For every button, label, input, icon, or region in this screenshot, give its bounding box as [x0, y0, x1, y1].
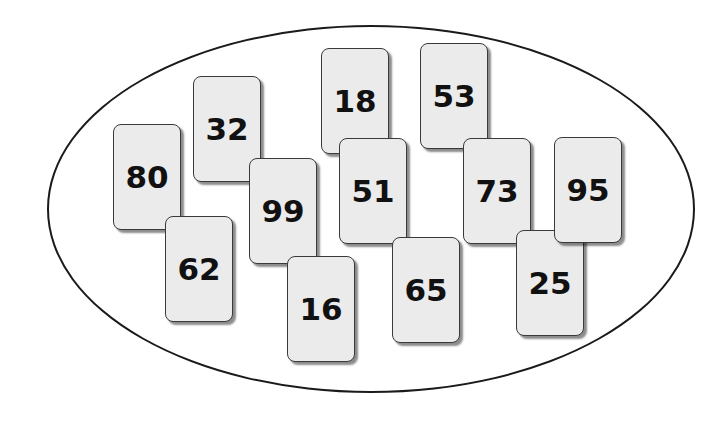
number-card: 65	[392, 237, 460, 343]
number-card: 95	[554, 137, 622, 243]
card-number: 73	[475, 173, 518, 209]
number-card: 99	[249, 158, 317, 264]
card-number: 65	[404, 272, 447, 308]
card-number: 80	[125, 159, 168, 195]
card-number: 62	[177, 251, 220, 287]
number-card: 62	[165, 216, 233, 322]
card-number: 32	[205, 111, 248, 147]
card-number: 53	[432, 78, 475, 114]
number-card: 53	[420, 43, 488, 149]
card-number: 16	[299, 291, 342, 327]
number-card: 73	[463, 138, 531, 244]
card-number: 51	[351, 173, 394, 209]
number-card: 80	[113, 124, 181, 230]
card-number: 99	[261, 193, 304, 229]
number-card: 51	[339, 138, 407, 244]
number-card: 25	[516, 230, 584, 336]
card-number: 25	[528, 265, 571, 301]
card-number: 18	[333, 83, 376, 119]
card-number: 95	[566, 172, 609, 208]
number-card: 16	[287, 256, 355, 362]
